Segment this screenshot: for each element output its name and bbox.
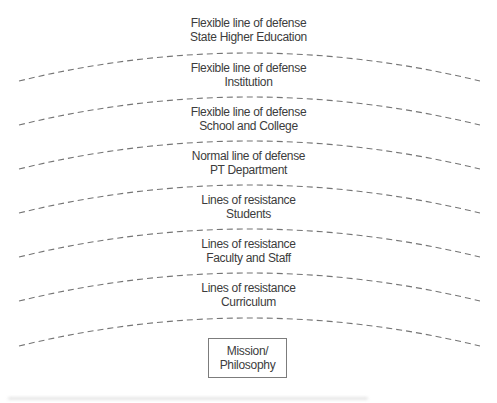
layer-type-text: Flexible line of defense <box>0 16 497 30</box>
layer-label-institution: Flexible line of defense Institution <box>0 61 497 89</box>
layer-type-text: Lines of resistance <box>0 237 497 251</box>
bottom-scan-artifact <box>8 397 368 400</box>
layer-type-text: Lines of resistance <box>0 193 497 207</box>
layer-level-text: State Higher Education <box>0 30 497 44</box>
layer-type-text: Flexible line of defense <box>0 105 497 119</box>
core-mission-philosophy-box: Mission/ Philosophy <box>208 338 287 378</box>
neuman-model-diagram: Flexible line of defense State Higher Ed… <box>0 0 497 403</box>
layer-label-state-higher-education: Flexible line of defense State Higher Ed… <box>0 16 497 44</box>
layer-level-text: Students <box>0 207 497 221</box>
layer-type-text: Lines of resistance <box>0 281 497 295</box>
layer-label-curriculum: Lines of resistance Curriculum <box>0 281 497 309</box>
core-line2-text: Philosophy <box>209 358 286 372</box>
layer-label-students: Lines of resistance Students <box>0 193 497 221</box>
layer-type-text: Flexible line of defense <box>0 61 497 75</box>
layer-label-faculty-and-staff: Lines of resistance Faculty and Staff <box>0 237 497 265</box>
layer-label-school-and-college: Flexible line of defense School and Coll… <box>0 105 497 133</box>
layer-level-text: Faculty and Staff <box>0 251 497 265</box>
layer-level-text: PT Department <box>0 163 497 177</box>
layer-type-text: Normal line of defense <box>0 149 497 163</box>
layer-level-text: School and College <box>0 119 497 133</box>
layer-label-pt-department: Normal line of defense PT Department <box>0 149 497 177</box>
layer-level-text: Curriculum <box>0 295 497 309</box>
core-line1-text: Mission/ <box>209 344 286 358</box>
layer-level-text: Institution <box>0 75 497 89</box>
